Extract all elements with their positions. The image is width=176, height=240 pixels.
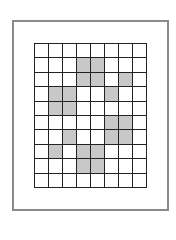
grid-cell-shaded: [105, 87, 119, 101]
grid-cell: [133, 87, 147, 101]
grid-cell: [119, 87, 133, 101]
grid-cell: [91, 87, 105, 101]
grid-cell: [35, 116, 49, 130]
grid-cell-shaded: [77, 145, 91, 159]
grid-cell: [63, 174, 77, 188]
grid-cell: [105, 145, 119, 159]
grid-cell: [133, 116, 147, 130]
grid-cell-shaded: [77, 58, 91, 72]
grid-cell: [105, 159, 119, 173]
grid-cell: [35, 159, 49, 173]
grid-cell: [133, 145, 147, 159]
grid-cell: [49, 130, 63, 144]
grid-cell: [105, 102, 119, 116]
shaded-grid: [34, 43, 147, 188]
grid-cell-shaded: [119, 116, 133, 130]
grid-cell: [119, 44, 133, 58]
grid-cell: [119, 102, 133, 116]
grid-cell: [105, 73, 119, 87]
grid-cell: [119, 174, 133, 188]
grid-cell-shaded: [49, 145, 63, 159]
grid-cell: [91, 102, 105, 116]
grid-cell-shaded: [77, 73, 91, 87]
grid-cell: [49, 174, 63, 188]
grid-cell: [63, 58, 77, 72]
grid-cell: [35, 174, 49, 188]
grid-cell-shaded: [49, 102, 63, 116]
grid-cell-shaded: [119, 73, 133, 87]
grid-cell: [77, 116, 91, 130]
grid-cell: [77, 44, 91, 58]
grid-cell: [91, 174, 105, 188]
grid-cell-shaded: [63, 102, 77, 116]
grid-cell-shaded: [119, 130, 133, 144]
grid-cell: [133, 58, 147, 72]
grid-cell: [35, 102, 49, 116]
grid-cell: [63, 116, 77, 130]
grid-cell: [49, 116, 63, 130]
grid-cell: [35, 44, 49, 58]
grid-cell: [119, 145, 133, 159]
grid-cell: [49, 159, 63, 173]
grid-cell: [133, 102, 147, 116]
grid-cell: [77, 102, 91, 116]
grid-cell-shaded: [91, 58, 105, 72]
grid-cell: [119, 159, 133, 173]
grid-cell-shaded: [63, 130, 77, 144]
grid-cell-shaded: [49, 87, 63, 101]
grid-cell: [35, 87, 49, 101]
grid-cell: [105, 58, 119, 72]
grid-cell-shaded: [91, 145, 105, 159]
grid-cell: [105, 174, 119, 188]
grid-cell: [133, 159, 147, 173]
grid-cell: [133, 174, 147, 188]
grid-cell-shaded: [77, 159, 91, 173]
grid-cell: [35, 73, 49, 87]
grid-cell-shaded: [63, 87, 77, 101]
grid-cell: [77, 130, 91, 144]
grid-cell: [35, 130, 49, 144]
grid-cell: [91, 44, 105, 58]
grid-cell: [63, 73, 77, 87]
grid-cell: [63, 44, 77, 58]
grid-cell: [91, 116, 105, 130]
grid-cell-shaded: [91, 159, 105, 173]
grid-cell: [77, 87, 91, 101]
grid-cell: [105, 44, 119, 58]
grid-cell: [133, 130, 147, 144]
grid-cell: [119, 58, 133, 72]
grid-cell: [133, 44, 147, 58]
grid-cell: [35, 58, 49, 72]
grid-cell: [35, 145, 49, 159]
grid-cell: [77, 174, 91, 188]
grid-cell: [49, 44, 63, 58]
grid-cell: [133, 73, 147, 87]
grid-cell-shaded: [105, 130, 119, 144]
grid-cell-shaded: [105, 116, 119, 130]
grid-cell-shaded: [91, 73, 105, 87]
grid-cell: [63, 145, 77, 159]
grid-cell: [63, 159, 77, 173]
grid-cell: [49, 58, 63, 72]
grid-cell: [91, 130, 105, 144]
grid-cell: [49, 73, 63, 87]
